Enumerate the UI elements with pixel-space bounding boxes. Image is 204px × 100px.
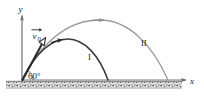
ground-region bbox=[6, 81, 182, 88]
trajectory-II-label: II bbox=[141, 38, 147, 48]
figure-canvas: y x 60° I II v 0 bbox=[0, 0, 204, 100]
velocity-vector-label-group: v 0 bbox=[32, 28, 42, 42]
x-axis-label: x bbox=[189, 76, 194, 86]
trajectory-I-direction-arrow bbox=[51, 39, 63, 42]
ground-speckle-fill bbox=[6, 82, 182, 89]
vector-overarrow-head bbox=[39, 28, 42, 31]
angle-label: 60° bbox=[28, 71, 41, 81]
velocity-symbol-label: v bbox=[33, 31, 37, 41]
projectile-motion-figure: y x 60° I II v 0 bbox=[0, 0, 204, 100]
y-axis-label: y bbox=[18, 4, 23, 14]
trajectory-I-label: I bbox=[88, 52, 91, 62]
